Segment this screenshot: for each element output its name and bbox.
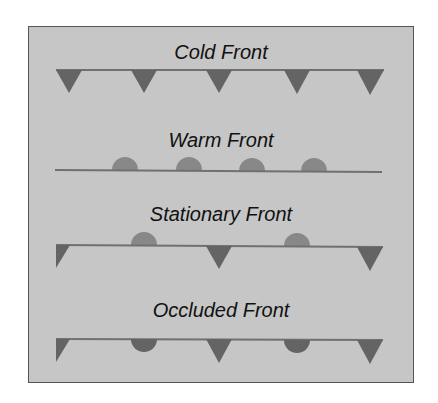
triangle-icon <box>206 246 232 269</box>
triangle-icon <box>284 70 310 94</box>
cold-front-symbol <box>56 70 384 95</box>
fronts-diagram <box>0 0 438 403</box>
triangle-icon <box>131 70 157 93</box>
semicircle-icon <box>112 157 138 170</box>
semicircle-icon <box>176 157 202 170</box>
semicircle-icon <box>131 232 157 245</box>
triangle-icon <box>206 339 232 363</box>
half-triangle-icon <box>56 245 70 268</box>
triangle-icon <box>357 247 383 271</box>
warm-front-symbol <box>55 157 382 172</box>
semicircle-icon <box>284 233 310 246</box>
semicircle-icon <box>301 158 327 171</box>
triangle-icon <box>357 340 383 364</box>
triangle-icon <box>357 70 384 95</box>
semicircle-icon <box>239 158 265 171</box>
triangle-icon <box>206 70 232 93</box>
semicircle-icon <box>284 340 310 353</box>
triangle-icon <box>56 70 82 93</box>
occluded-front-symbol <box>56 339 383 364</box>
stationary-front-symbol <box>56 232 383 271</box>
semicircle-icon <box>131 339 157 352</box>
half-triangle-icon <box>56 339 70 362</box>
